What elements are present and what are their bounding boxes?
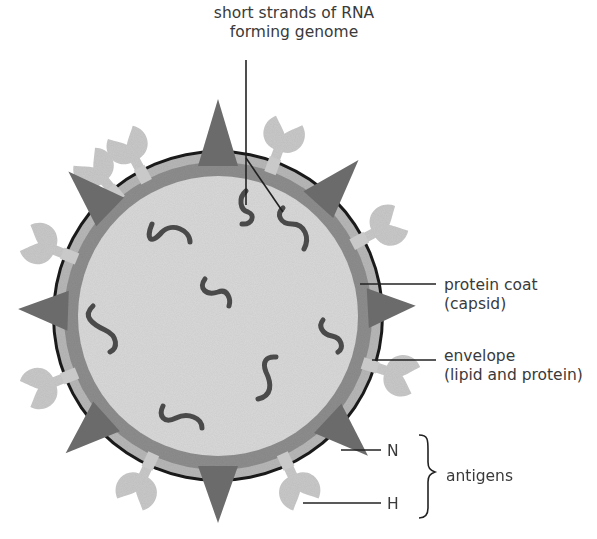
envelope-label-line1: envelope xyxy=(444,347,583,366)
virus-diagram: short strands of RNA forming genome prot… xyxy=(0,0,597,539)
antigens-brace xyxy=(419,435,435,518)
virus-core xyxy=(78,176,358,456)
genome-label-line2: forming genome xyxy=(174,23,414,42)
genome-label: short strands of RNA forming genome xyxy=(174,4,414,42)
n-spike-icon xyxy=(198,466,238,523)
capsid-label-line1: protein coat xyxy=(444,276,538,295)
capsid-label-line2: (capsid) xyxy=(444,295,538,314)
antigens-label: antigens xyxy=(446,467,513,486)
envelope-label: envelope (lipid and protein) xyxy=(444,347,583,385)
n-antigen-label: N xyxy=(387,442,399,461)
envelope-label-line2: (lipid and protein) xyxy=(444,366,583,385)
n-spike-icon xyxy=(198,99,238,166)
virus-illustration xyxy=(0,0,597,539)
h-antigen-label: H xyxy=(387,495,399,514)
capsid-label: protein coat (capsid) xyxy=(444,276,538,314)
n-spike-icon xyxy=(367,286,417,328)
genome-label-line1: short strands of RNA xyxy=(174,4,414,23)
n-spike-icon xyxy=(17,289,68,331)
